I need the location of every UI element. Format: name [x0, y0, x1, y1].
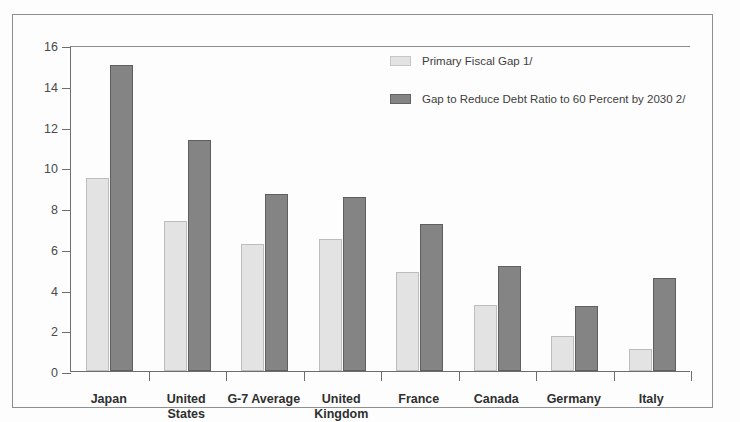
x-axis-category-label: G-7 Average	[225, 392, 303, 407]
y-axis-tick-label: 6	[51, 245, 58, 258]
legend-item: Primary Fiscal Gap 1/	[390, 54, 685, 67]
bar-group	[319, 47, 366, 371]
bar-group	[86, 47, 133, 371]
x-axis-tick	[381, 371, 382, 381]
y-axis-tick	[62, 332, 71, 333]
y-axis-tick-label: 2	[51, 326, 58, 339]
y-axis-tick-label: 14	[44, 82, 58, 95]
y-axis-tick-label: 8	[51, 204, 58, 217]
legend-item: Gap to Reduce Debt Ratio to 60 Percent b…	[390, 92, 685, 105]
y-axis-tick	[62, 292, 71, 293]
x-axis-category-label: Canada	[458, 392, 536, 407]
y-axis-tick-label: 4	[51, 285, 58, 298]
y-axis-tick-label: 0	[51, 367, 58, 380]
x-axis-tick	[459, 371, 460, 381]
bar	[551, 336, 574, 371]
x-axis-tick	[536, 371, 537, 381]
chart-legend: Primary Fiscal Gap 1/Gap to Reduce Debt …	[390, 54, 685, 130]
legend-item-label: Gap to Reduce Debt Ratio to 60 Percent b…	[422, 93, 685, 105]
x-axis-category-label: United States	[148, 392, 226, 422]
bar	[241, 244, 264, 371]
x-axis-category-label: Japan	[70, 392, 148, 407]
bar	[629, 349, 652, 371]
y-axis-tick	[62, 129, 71, 130]
legend-item-label: Primary Fiscal Gap 1/	[422, 55, 533, 67]
x-axis-tick	[304, 371, 305, 381]
bar-group	[241, 47, 288, 371]
bar	[110, 65, 133, 371]
x-axis-tick	[226, 371, 227, 381]
legend-swatch-icon	[390, 94, 411, 104]
bar	[164, 221, 187, 371]
y-axis-tick-label: 10	[44, 163, 58, 176]
legend-swatch-icon	[390, 56, 411, 66]
y-axis-tick	[62, 47, 71, 48]
x-axis-category-label: France	[380, 392, 458, 407]
x-axis-category-label: Germany	[535, 392, 613, 407]
bar	[319, 239, 342, 371]
bar	[474, 305, 497, 371]
bar	[653, 278, 676, 371]
bar-group	[164, 47, 211, 371]
bar	[188, 140, 211, 371]
bar	[343, 197, 366, 371]
y-axis-tick-label: 12	[44, 122, 58, 135]
x-axis-category-label: Italy	[613, 392, 691, 407]
bar	[396, 272, 419, 371]
y-axis-tick	[62, 373, 71, 374]
bar	[86, 178, 109, 371]
bar	[420, 224, 443, 371]
y-axis-tick	[62, 169, 71, 170]
chart-figure: 0246810121416 Primary Fiscal Gap 1/Gap t…	[0, 0, 740, 422]
x-axis-tick	[691, 371, 692, 381]
bar	[575, 306, 598, 371]
x-axis-category-label: United Kingdom	[303, 392, 381, 422]
x-axis-tick	[614, 371, 615, 381]
x-axis-tick	[149, 371, 150, 381]
y-axis-tick	[62, 88, 71, 89]
y-axis-tick	[62, 210, 71, 211]
bar	[498, 266, 521, 371]
y-axis-tick-label: 16	[44, 41, 58, 54]
bar	[265, 194, 288, 371]
y-axis-tick	[62, 251, 71, 252]
